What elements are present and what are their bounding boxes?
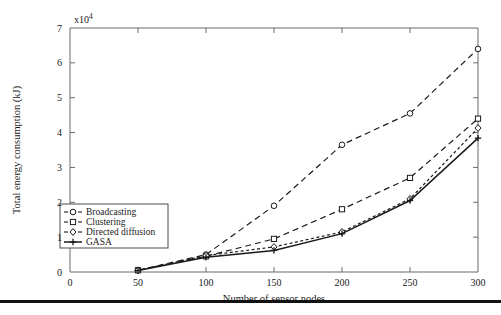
series-clustering xyxy=(135,116,480,273)
y-tick-label: 4 xyxy=(57,127,62,138)
legend-marker-circle-icon xyxy=(70,209,76,215)
energy-consumption-line-chart: BroadcastingClusteringDirected diffusion… xyxy=(0,0,501,315)
data-point-marker xyxy=(271,236,276,241)
y-tick-label: 3 xyxy=(57,162,62,173)
y-tick-label: 7 xyxy=(57,23,62,34)
x-tick-label: 200 xyxy=(335,277,350,288)
figure-container: BroadcastingClusteringDirected diffusion… xyxy=(0,0,501,315)
x-tick-label: 50 xyxy=(133,277,143,288)
data-point-marker xyxy=(407,111,413,117)
legend-label: GASA xyxy=(86,237,112,247)
series-directed-diffusion xyxy=(135,125,481,274)
y-tick-label: 6 xyxy=(57,57,62,68)
series-path xyxy=(138,49,478,270)
bottom-divider-rule xyxy=(0,300,501,303)
data-point-marker xyxy=(339,207,344,212)
x-tick-label: 250 xyxy=(403,277,418,288)
y-tick-label: 0 xyxy=(57,267,62,278)
x-tick-label: 150 xyxy=(267,277,282,288)
chart-legend: BroadcastingClusteringDirected diffusion… xyxy=(60,204,168,248)
data-point-marker xyxy=(339,142,345,148)
legend-label: Directed diffusion xyxy=(86,227,155,237)
axis-labels-group: 05010015020025030001234567x104Number of … xyxy=(11,12,486,304)
data-point-marker xyxy=(475,125,481,132)
legend-label: Clustering xyxy=(86,217,126,227)
data-point-marker xyxy=(271,203,277,209)
y-tick-label: 2 xyxy=(57,197,62,208)
x-tick-label: 300 xyxy=(471,277,486,288)
series-gasa xyxy=(135,135,481,274)
legend-label: Broadcasting xyxy=(86,207,136,217)
data-point-marker xyxy=(475,116,480,121)
series-path xyxy=(138,119,478,271)
legend-marker-square-icon xyxy=(70,219,75,224)
x-tick-label: 0 xyxy=(68,277,73,288)
x-tick-label: 100 xyxy=(199,277,214,288)
y-tick-label: 1 xyxy=(57,232,62,243)
series-path xyxy=(138,128,478,270)
y-tick-label: 5 xyxy=(57,92,62,103)
data-point-marker xyxy=(407,175,412,180)
series-path xyxy=(138,138,478,270)
y-axis-multiplier: x104 xyxy=(74,12,93,25)
data-series-group xyxy=(135,46,481,274)
data-point-marker xyxy=(475,46,481,52)
y-axis-title: Total energy consumption (kJ) xyxy=(11,85,23,214)
